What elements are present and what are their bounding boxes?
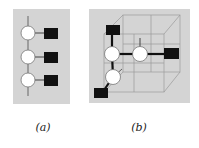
node-circle-b2 [133, 47, 148, 62]
caption-b: (b) [124, 121, 154, 134]
caption-a: (a) [28, 121, 58, 134]
node-circle-b1 [105, 47, 120, 62]
node-circle-2 [21, 50, 35, 64]
panel-b [89, 9, 190, 103]
panel-a [13, 9, 70, 104]
square-1 [44, 28, 58, 39]
node-circle-b3 [106, 70, 121, 85]
square-b-top [106, 25, 120, 35]
node-circle-3 [21, 73, 35, 87]
square-b-right [164, 48, 179, 59]
square-2 [44, 52, 58, 63]
node-circle-1 [21, 26, 35, 40]
square-b-bottom [94, 88, 108, 98]
square-3 [44, 75, 58, 86]
